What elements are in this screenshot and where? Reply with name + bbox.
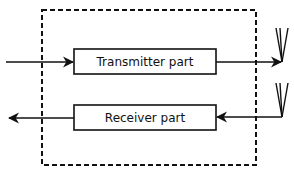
antenna-icon (276, 83, 288, 117)
transceiver-diagram: Transmitter part Receiver part (0, 0, 294, 173)
transmitter-label: Transmitter part (96, 55, 194, 69)
receiver-block: Receiver part (74, 105, 216, 130)
receiver-label: Receiver part (105, 111, 186, 125)
dashed-container (42, 10, 256, 165)
antenna-icon (276, 28, 288, 62)
transmitter-block: Transmitter part (74, 49, 216, 74)
